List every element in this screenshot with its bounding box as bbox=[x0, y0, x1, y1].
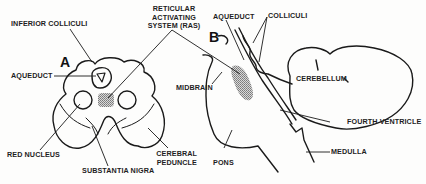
brainstem-diagram: A B INFERIOR COLLICULI RETICULAR ACTIVAT… bbox=[0, 0, 426, 184]
label-cerebral-peduncle-line2: PEDUNCLE bbox=[155, 159, 197, 168]
label-cerebral-peduncle: CEREBRAL PEDUNCLE bbox=[155, 150, 197, 167]
panel-label-b: B bbox=[209, 29, 219, 45]
label-inferior-colliculi: INFERIOR COLLICULI bbox=[11, 20, 87, 29]
label-fourth-ventricle: FOURTH VENTRICLE bbox=[347, 118, 421, 127]
label-midbrain: MIDBRAIN bbox=[176, 84, 213, 93]
label-substantia-nigra: SUBSTANTIA NIGRA bbox=[82, 167, 154, 176]
label-cerebellum: CEREBELLUM bbox=[296, 75, 347, 84]
label-aqueduct-a: AQUEDUCT bbox=[11, 72, 53, 81]
label-colliculi: COLLICULI bbox=[268, 12, 307, 21]
label-ras-line3: SYSTEM (RAS) bbox=[146, 22, 202, 31]
panel-label-a: A bbox=[60, 54, 70, 70]
label-red-nucleus: RED NUCLEUS bbox=[7, 151, 60, 160]
label-medulla: MEDULLA bbox=[331, 148, 367, 157]
sagittal-brainstem bbox=[203, 28, 413, 172]
label-ras: RETICULAR ACTIVATING SYSTEM (RAS) bbox=[146, 5, 202, 31]
ras-shading-a bbox=[98, 93, 114, 107]
label-aqueduct-b: AQUEDUCT bbox=[213, 13, 255, 22]
label-pons: PONS bbox=[213, 159, 234, 168]
